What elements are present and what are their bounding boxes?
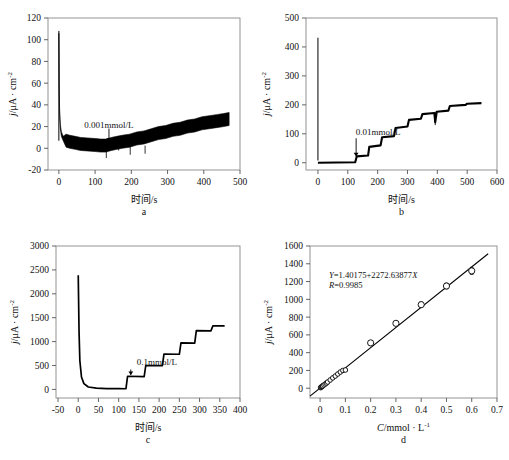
panel-letter-c: c xyxy=(146,434,151,445)
x-tick-label: 50 xyxy=(94,405,104,415)
panel-c: -500501001502002503003504000500100015002… xyxy=(0,230,254,460)
y-tick-label: 20 xyxy=(32,122,42,132)
y-tick-label: 1600 xyxy=(284,241,303,251)
point-marker xyxy=(393,320,399,326)
x-tick-label: 200 xyxy=(152,405,167,415)
x-tick-label: 400 xyxy=(430,177,445,187)
y-axis-title-c: j/μA · cm-2 xyxy=(8,300,20,346)
y-tick-label: 3000 xyxy=(30,241,49,251)
y-tick-label: 300 xyxy=(285,71,300,81)
y-axis-title-c-text: j/μA · cm-2 xyxy=(8,300,20,346)
panel-a-chart: 0100200300400500-200204060801001200.001m… xyxy=(0,0,254,230)
x-tick-label: -50 xyxy=(52,405,65,415)
y-tick-label: 40 xyxy=(32,100,42,110)
x-tick-label: 100 xyxy=(112,405,127,415)
y-tick-label: 1200 xyxy=(284,277,303,287)
x-tick-label: 350 xyxy=(213,405,228,415)
x-tick-label: 0.5 xyxy=(441,405,453,415)
data-point xyxy=(418,302,424,308)
x-tick-label: 300 xyxy=(400,177,415,187)
data-point xyxy=(368,340,374,346)
x-tick-label: 0.4 xyxy=(415,405,427,415)
data-point xyxy=(393,320,399,326)
y-tick-label: 1400 xyxy=(284,259,303,269)
panel-d-chart: 00.10.20.30.40.50.60.7020040060080010001… xyxy=(254,230,509,460)
plot-frame xyxy=(56,246,240,398)
plot-frame xyxy=(306,18,497,170)
x-tick-label: 100 xyxy=(88,177,103,187)
x-tick-label: 0 xyxy=(76,405,81,415)
r-value-label: R=0.9985 xyxy=(328,280,363,290)
point-marker xyxy=(343,368,348,373)
staircase-trace xyxy=(78,275,224,389)
point-marker xyxy=(469,268,475,274)
annotation-label-a: 0.001mmol/L xyxy=(84,120,133,130)
y-tick-label: 0 xyxy=(298,384,303,394)
annotation-arrow-head xyxy=(128,371,133,375)
figure-panel-grid: 0100200300400500-200204060801001200.001m… xyxy=(0,0,509,460)
x-tick-label: 400 xyxy=(233,405,248,415)
y-tick-label: 60 xyxy=(32,79,42,89)
x-tick-label: 600 xyxy=(490,177,505,187)
y-axis-title-a: j/μA · cm-2 xyxy=(6,72,18,118)
x-tick-label: 250 xyxy=(172,405,187,415)
x-axis-title-d: C/mmol · L-1 xyxy=(377,421,431,433)
panel-a: 0100200300400500-200204060801001200.001m… xyxy=(0,0,254,230)
axes-a: 0100200300400500-20020406080100120 xyxy=(27,13,248,187)
panel-c-chart: -500501001502002503003504000500100015002… xyxy=(0,230,254,460)
data-point xyxy=(343,368,348,373)
series-current-density-vs-time xyxy=(78,275,224,389)
y-tick-label: 2000 xyxy=(30,289,49,299)
series-current-density-vs-time xyxy=(59,31,229,158)
panel-b: 010020030040050060001002003004005000.01m… xyxy=(254,0,509,230)
panel-letter-b: b xyxy=(399,206,404,217)
x-axis-title-a: 时间/s xyxy=(131,193,158,205)
x-tick-label: 0.1 xyxy=(339,405,351,415)
x-axis-title-b: 时间/s xyxy=(388,193,415,205)
y-tick-label: 100 xyxy=(285,129,300,139)
panel-letter-a: a xyxy=(142,206,147,217)
data-point xyxy=(443,283,449,289)
y-tick-label: 500 xyxy=(285,13,300,23)
x-tick-label: 300 xyxy=(192,405,207,415)
y-axis-title-b: j/μA · cm-2 xyxy=(260,72,272,118)
x-tick-label: 0.3 xyxy=(390,405,402,415)
x-tick-label: 400 xyxy=(197,177,212,187)
x-tick-label: 0.2 xyxy=(365,405,377,415)
y-tick-label: 100 xyxy=(27,35,42,45)
x-tick-label: 500 xyxy=(460,177,475,187)
panel-d: 00.10.20.30.40.50.60.7020040060080010001… xyxy=(254,230,509,460)
y-tick-label: 0 xyxy=(36,144,41,154)
y-tick-label: 80 xyxy=(32,57,42,67)
x-tick-label: 100 xyxy=(341,177,356,187)
x-tick-label: 0 xyxy=(56,177,61,187)
y-axis-title-d-text: j/μA · cm-2 xyxy=(262,300,274,346)
y-tick-label: 1000 xyxy=(284,295,303,305)
series-current-density-vs-time xyxy=(318,38,482,163)
y-axis-title-a-text: j/μA · cm-2 xyxy=(6,72,18,118)
y-tick-label: 200 xyxy=(289,366,304,376)
point-marker xyxy=(368,340,374,346)
noise-band xyxy=(59,31,229,152)
x-tick-label: 200 xyxy=(124,177,139,187)
y-tick-label: 800 xyxy=(289,313,304,323)
x-tick-label: 0.7 xyxy=(491,405,503,415)
axes-c: -500501001502002503003504000500100015002… xyxy=(30,241,247,415)
y-axis-title-b-text: j/μA · cm-2 xyxy=(260,72,272,118)
x-tick-label: 500 xyxy=(233,177,248,187)
y-tick-label: 0 xyxy=(44,385,49,395)
x-tick-label: 0.6 xyxy=(466,405,478,415)
y-tick-label: 500 xyxy=(35,361,50,371)
y-tick-label: 200 xyxy=(285,100,300,110)
x-axis-title-c: 时间/s xyxy=(135,421,162,433)
point-marker xyxy=(418,302,424,308)
y-tick-label: 600 xyxy=(289,330,304,340)
y-tick-label: 0 xyxy=(294,158,299,168)
x-tick-label: 0 xyxy=(316,177,321,187)
data-point xyxy=(469,267,475,274)
annotation-label-b: 0.01mmol/L xyxy=(356,127,401,137)
x-tick-label: 150 xyxy=(132,405,147,415)
y-tick-label: 120 xyxy=(27,13,42,23)
annotation-label-c: 0.1mmol/L xyxy=(137,357,177,367)
y-tick-label: 1500 xyxy=(30,313,49,323)
